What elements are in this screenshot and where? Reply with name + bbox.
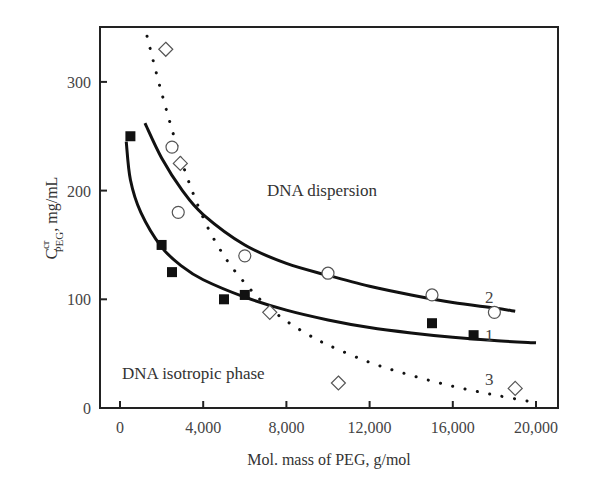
x-tick-label: 12,000 <box>348 419 392 436</box>
square-marker <box>240 290 250 300</box>
square-marker <box>427 318 437 328</box>
diamond-marker <box>173 156 187 170</box>
diamond-marker <box>331 376 345 390</box>
x-axis-ticks: 04,0008,00012,00016,00020,000 <box>116 401 558 436</box>
y-tick-label: 200 <box>67 183 91 200</box>
svg-text:CcrPEG, mg/mL: CcrPEG, mg/mL <box>39 177 65 260</box>
y-tick-label: 0 <box>83 400 91 417</box>
x-tick-label: 8,000 <box>268 419 304 436</box>
fit-curve-1 <box>126 142 536 343</box>
square-marker <box>469 330 479 340</box>
y-axis-title-sub: PEG <box>53 232 65 253</box>
data-points <box>125 42 522 395</box>
circle-marker <box>239 250 251 262</box>
y-tick-label: 300 <box>67 74 91 91</box>
fit-curves <box>126 36 536 402</box>
y-axis-title-units: , mg/mL <box>43 177 61 232</box>
curve-label-2: 2 <box>485 288 494 307</box>
curve-label-3: 3 <box>485 370 494 389</box>
circle-marker <box>322 267 334 279</box>
circle-marker <box>426 289 438 301</box>
chart: 04,0008,00012,00016,00020,000 0100200300… <box>0 0 596 490</box>
y-tick-label: 100 <box>67 291 91 308</box>
fit-curve-2 <box>145 123 515 311</box>
circle-marker <box>488 306 500 318</box>
y-axis-title: CcrPEG, mg/mL <box>39 177 65 260</box>
plot-frame <box>100 27 558 408</box>
x-tick-label: 0 <box>116 419 124 436</box>
x-tick-label: 4,000 <box>185 419 221 436</box>
square-marker <box>167 267 177 277</box>
x-tick-label: 16,000 <box>431 419 475 436</box>
circle-marker <box>166 141 178 153</box>
fit-curve-3 <box>147 36 536 402</box>
square-marker <box>125 131 135 141</box>
square-marker <box>219 294 229 304</box>
y-axis-title-sup: cr <box>39 240 51 249</box>
region-label-isotropic: DNA isotropic phase <box>122 364 265 383</box>
diamond-marker <box>159 42 173 56</box>
region-label-dispersion: DNA dispersion <box>267 181 378 200</box>
diamond-marker <box>508 381 522 395</box>
circle-marker <box>172 206 184 218</box>
square-marker <box>157 240 167 250</box>
curve-label-1: 1 <box>485 326 494 345</box>
x-axis-title: Mol. mass of PEG, g/mol <box>247 451 411 469</box>
x-tick-label: 20,000 <box>514 419 558 436</box>
